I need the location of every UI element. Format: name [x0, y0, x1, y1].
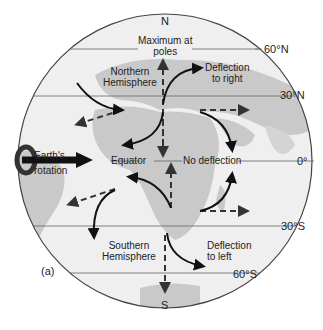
panel-label: (a): [41, 265, 54, 277]
lat-60s-label: 60°S: [233, 268, 257, 280]
north-pole-label: N: [161, 15, 169, 27]
equator-label: Equator: [111, 155, 146, 166]
lat-60n-label: 60°N: [264, 43, 289, 55]
northern-hemisphere-label: Northern Hemisphere: [103, 66, 157, 88]
deflection-right-label: Deflection to right: [205, 62, 249, 84]
lat-30n-label: 30°N: [280, 89, 305, 101]
deflection-left-label: Deflection to left: [207, 240, 251, 262]
southern-hemisphere-label: Southern Hemisphere: [102, 240, 156, 262]
lat-30s-label: 30°S: [281, 220, 305, 232]
south-pole-label: S: [161, 299, 168, 311]
no-deflection-label: No deflection: [183, 155, 241, 166]
lat-0-label: 0°: [297, 155, 308, 167]
maximum-at-poles-label: Maximum at poles: [138, 35, 192, 57]
earth-rotation-label: Earth's rotation: [34, 150, 67, 176]
